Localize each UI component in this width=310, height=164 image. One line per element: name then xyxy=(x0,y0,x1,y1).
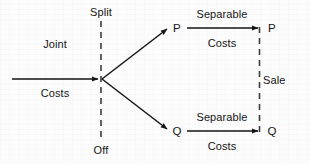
joint-costs-label-top: Joint xyxy=(43,38,67,50)
separable-label-q-bottom: Costs xyxy=(208,140,237,152)
product-q-left-label: Q xyxy=(172,125,181,137)
joint-costs-label-bottom: Costs xyxy=(41,87,70,99)
product-p-left-label: P xyxy=(173,22,181,34)
product-q-right-label: Q xyxy=(267,125,276,137)
separable-label-q-top: Separable xyxy=(196,111,247,123)
branch-arrow-to-q xyxy=(102,79,167,129)
split-label: Split xyxy=(90,6,112,18)
product-p-right-label: P xyxy=(268,22,276,34)
joint-cost-diagram: Joint Costs Split Off P P Q Q Separable … xyxy=(0,0,310,164)
separable-label-p-bottom: Costs xyxy=(208,37,237,49)
separable-label-p-top: Separable xyxy=(196,8,247,20)
off-label: Off xyxy=(94,144,109,156)
branch-arrow-to-p xyxy=(102,29,167,79)
sale-label: Sale xyxy=(263,74,285,86)
